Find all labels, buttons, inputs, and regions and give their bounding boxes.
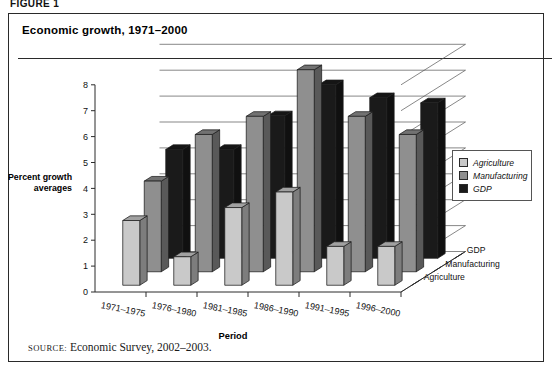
source-keyword: source: xyxy=(28,343,67,353)
y-tick-label-5: 5 xyxy=(83,158,88,168)
bar-front-face xyxy=(225,208,242,286)
bar-front-face xyxy=(327,246,344,285)
x-category-label-3: 1986–1990 xyxy=(253,300,299,318)
bar-side-face xyxy=(242,203,249,285)
y-tick-label-3: 3 xyxy=(83,210,88,220)
bar-side-face xyxy=(140,216,147,285)
bar-manufacturing-2 xyxy=(246,112,270,272)
depth-tick-1 xyxy=(433,267,441,272)
bar-front-face xyxy=(195,134,212,271)
bar-gdp-4 xyxy=(370,93,394,258)
y-tick-label-2: 2 xyxy=(83,235,88,245)
bar-agriculture-4 xyxy=(327,242,351,286)
y-tick-label-4: 4 xyxy=(83,184,88,194)
y-tick-label-8: 8 xyxy=(83,80,88,90)
y-tick-label-7: 7 xyxy=(83,106,88,116)
bar-manufacturing-1 xyxy=(195,130,219,272)
bar-side-face xyxy=(293,187,300,285)
legend-swatch-gdp xyxy=(459,184,468,193)
bar-manufacturing-3 xyxy=(297,65,321,272)
depth-tick-0 xyxy=(412,280,420,285)
bar-agriculture-3 xyxy=(276,187,300,285)
legend-swatch-agriculture xyxy=(459,158,468,167)
bar-side-face xyxy=(212,130,219,272)
bar-side-face xyxy=(183,145,190,258)
bar-agriculture-0 xyxy=(123,216,147,285)
bar-side-face xyxy=(416,130,423,272)
bar-front-face xyxy=(276,192,293,285)
bar-side-face xyxy=(438,98,445,258)
depth-label-1: Manufacturing xyxy=(445,259,500,269)
x-axis-title: Period xyxy=(219,331,248,341)
y-axis-title-line2: averages xyxy=(34,183,72,193)
bar-manufacturing-4 xyxy=(348,112,372,272)
bar-manufacturing-5 xyxy=(399,130,423,272)
source-text: Economic Survey, 2002–2003. xyxy=(67,341,212,353)
bar-agriculture-5 xyxy=(378,242,402,286)
bar-side-face xyxy=(365,112,372,272)
bar-side-face xyxy=(387,93,394,258)
bar-gdp-5 xyxy=(421,98,445,258)
legend-item-agriculture: Agriculture xyxy=(459,156,525,169)
bar-side-face xyxy=(395,242,402,286)
bar-manufacturing-0 xyxy=(144,176,168,271)
legend-label-gdp: GDP xyxy=(473,184,492,194)
bar-side-face xyxy=(263,112,270,272)
x-category-label-1: 1976–1980 xyxy=(151,300,197,318)
y-tick-label-0: 0 xyxy=(83,287,88,297)
bar-gdp-0 xyxy=(166,145,190,258)
x-category-label-0: 1971–1975 xyxy=(100,300,146,318)
legend-label-manufacturing: Manufacturing xyxy=(473,171,527,181)
bar-side-face xyxy=(161,176,168,271)
x-category-label-4: 1991–1995 xyxy=(304,300,350,318)
y-axis-title-line1: Percent growth xyxy=(8,172,72,182)
bar-front-face xyxy=(378,246,395,285)
bar-agriculture-1 xyxy=(174,252,198,285)
source-note: source: Economic Survey, 2002–2003. xyxy=(28,341,212,353)
chart-bars xyxy=(123,65,445,285)
legend-item-manufacturing: Manufacturing xyxy=(459,169,525,182)
legend-label-agriculture: Agriculture xyxy=(473,158,514,168)
bar-side-face xyxy=(314,65,321,272)
bar-side-face xyxy=(336,80,343,258)
legend-swatch-manufacturing xyxy=(459,171,468,180)
bar-side-face xyxy=(344,242,351,286)
depth-label-0: Agriculture xyxy=(424,272,465,282)
bar-gdp-3 xyxy=(319,80,343,258)
x-category-label-5: 1996–2000 xyxy=(355,300,401,318)
chart-legend: Agriculture Manufacturing GDP xyxy=(452,150,532,201)
bar-side-face xyxy=(191,252,198,285)
x-category-label-2: 1981–1985 xyxy=(202,300,248,318)
y-tick-label-1: 1 xyxy=(83,261,88,271)
depth-tick-2 xyxy=(455,253,463,258)
bar-front-face xyxy=(123,221,140,286)
bar-front-face xyxy=(174,257,191,285)
legend-item-gdp: GDP xyxy=(459,182,525,195)
bar-agriculture-2 xyxy=(225,203,249,285)
depth-label-2: GDP xyxy=(467,245,486,255)
y-tick-label-6: 6 xyxy=(83,132,88,142)
